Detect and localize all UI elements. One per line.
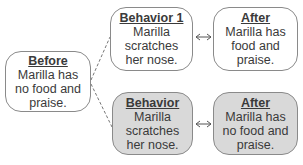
behavior-1-line-1: Marilla: [133, 25, 170, 39]
behavior-2-box: Behavior Marilla scratches her nose.: [112, 92, 193, 155]
dashed-connector-bottom: [91, 84, 112, 127]
behavior-2-line-1: Marilla: [134, 110, 171, 124]
before-title: Before: [28, 54, 68, 68]
after-2-title: After: [241, 96, 270, 110]
behavior-2-line-3: her nose.: [126, 138, 178, 152]
after-1-line-3: praise.: [237, 53, 275, 67]
before-line-1: Marilla has: [18, 68, 78, 82]
after-1-title: After: [241, 11, 270, 25]
dashed-connector-top: [91, 37, 110, 80]
after-1-box: After Marilla has food and praise.: [213, 7, 298, 71]
after-2-line-1: Marilla has: [225, 110, 285, 124]
after-1-line-1: Marilla has: [225, 25, 285, 39]
before-box: Before Marilla has no food and praise.: [5, 51, 91, 112]
double-arrow-top-icon: [196, 34, 211, 40]
behavior-1-title: Behavior 1: [120, 11, 184, 25]
after-1-line-2: food and: [231, 39, 280, 53]
before-line-2: no food and: [15, 82, 81, 96]
after-2-box: After Marilla has no food and praise.: [213, 92, 298, 155]
behavior-1-line-3: her nose.: [125, 53, 177, 67]
behavior-1-line-2: scratches: [125, 39, 179, 53]
after-2-line-2: no food and: [222, 124, 288, 138]
behavior-2-line-2: scratches: [126, 124, 180, 138]
behavior-1-box: Behavior 1 Marilla scratches her nose.: [110, 7, 193, 71]
double-arrow-bottom-icon: [196, 121, 211, 127]
behavior-2-title: Behavior: [126, 96, 180, 110]
after-2-line-3: praise.: [237, 138, 275, 152]
before-line-3: praise.: [29, 96, 67, 110]
